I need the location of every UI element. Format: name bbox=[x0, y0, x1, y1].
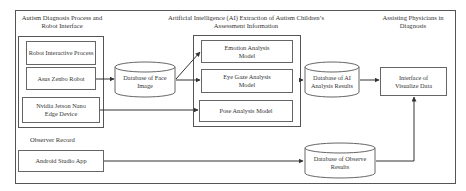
connector-lines bbox=[0, 0, 466, 191]
